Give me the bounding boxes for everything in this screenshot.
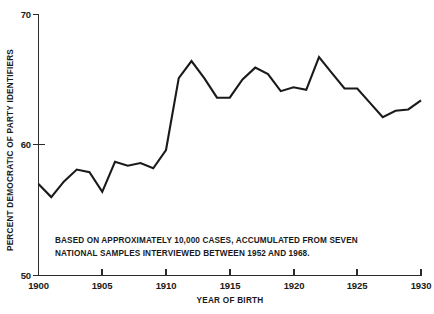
x-tick-label-1900: 1900 <box>28 280 49 291</box>
y-tick-label-70: 70 <box>21 9 31 20</box>
x-tick-label-1930: 1930 <box>411 280 432 291</box>
y-axis-title: PERCENT DEMOCRATIC OF PARTY IDENTIFIERS <box>6 49 15 251</box>
chart-figure: 70 60 50 1900 1905 1910 1915 1920 1925 1… <box>0 0 434 314</box>
line-chart: 70 60 50 1900 1905 1910 1915 1920 1925 1… <box>0 0 434 314</box>
y-tick-label-60: 60 <box>21 139 31 150</box>
y-tick-label-50: 50 <box>21 270 31 281</box>
x-tick-label-1920: 1920 <box>284 280 305 291</box>
x-tick-label-1910: 1910 <box>156 280 177 291</box>
x-tick-label-1905: 1905 <box>92 280 114 291</box>
annotation-line-1: BASED ON APPROXIMATELY 10,000 CASES, ACC… <box>55 236 358 245</box>
x-tick-label-1925: 1925 <box>347 280 369 291</box>
chart-background <box>0 0 434 314</box>
annotation-line-2: NATIONAL SAMPLES INTERVIEWED BETWEEN 195… <box>55 249 310 258</box>
x-axis-title: YEAR OF BIRTH <box>197 296 264 305</box>
x-tick-label-1915: 1915 <box>220 280 242 291</box>
